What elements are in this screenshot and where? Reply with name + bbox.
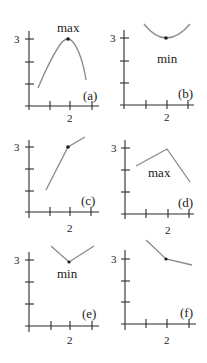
x-tick-label: 2	[67, 112, 73, 124]
panel-label: (b)	[178, 86, 193, 101]
panel-c: 3 (c) 2	[14, 137, 99, 234]
panel-label: (d)	[178, 195, 193, 210]
min-point	[164, 36, 168, 40]
corner-point	[66, 145, 70, 149]
annotation-min: min	[57, 266, 78, 281]
panel-b: 3 min (b) 2	[110, 24, 194, 123]
annotation-max: max	[148, 165, 171, 180]
y-tick-label: 3	[14, 141, 20, 153]
y-tick-label: 3	[14, 33, 20, 45]
y-tick-label: 3	[111, 253, 117, 265]
panel-label: (e)	[82, 306, 96, 321]
panel-label: (f)	[180, 305, 193, 320]
curve	[144, 24, 190, 38]
x-tick-label: 2	[164, 111, 170, 123]
x-tick-label: 2	[164, 334, 170, 346]
curve	[146, 240, 192, 265]
panel-label: (c)	[81, 193, 95, 208]
panel-e: 3 min (e) 2	[14, 246, 99, 346]
figure-six-graphs: 3 max (a) 2 3 min (b) 2 3 (c) 2	[0, 0, 207, 363]
y-tick-label: 3	[110, 32, 116, 44]
panel-d: 3 max (d) 2	[111, 140, 194, 236]
panel-label: (a)	[83, 88, 97, 103]
curve	[51, 246, 94, 262]
x-tick-label: 2	[67, 334, 73, 346]
panel-f: 3 (f) 2	[111, 240, 196, 346]
min-point	[67, 260, 70, 263]
annotation-max: max	[57, 20, 80, 35]
x-tick-label: 2	[67, 222, 73, 234]
y-tick-label: 3	[111, 142, 117, 154]
curve	[38, 39, 86, 88]
y-tick-label: 3	[14, 254, 20, 266]
corner-point	[164, 257, 167, 260]
annotation-min: min	[157, 51, 178, 66]
curve	[46, 137, 85, 190]
max-point	[66, 37, 70, 41]
x-tick-label: 2	[165, 224, 171, 236]
panel-a: 3 max (a) 2	[14, 20, 99, 124]
